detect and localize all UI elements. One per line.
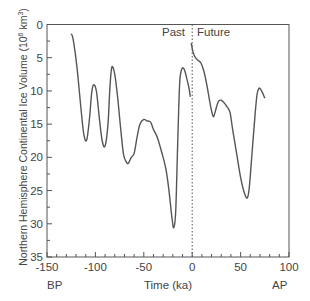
x-tick-label: -100 bbox=[84, 261, 107, 273]
y-tick-label: 20 bbox=[30, 151, 43, 163]
x-tick-label: -50 bbox=[135, 261, 152, 273]
y-axis-ticks: 05101520253035 bbox=[30, 19, 52, 264]
x-axis-label: Time (ka) bbox=[144, 279, 192, 291]
past-label: Past bbox=[162, 26, 186, 38]
x-tick-label: 0 bbox=[189, 261, 195, 273]
x-tick-label: -150 bbox=[35, 261, 58, 273]
series-line-future bbox=[191, 43, 265, 198]
y-tick-label: 0 bbox=[37, 19, 43, 31]
ice-volume-chart: 05101520253035 -150-100-50050100 Past Fu… bbox=[0, 0, 310, 301]
y-tick-label: 30 bbox=[30, 218, 43, 230]
y-tick-label: 10 bbox=[30, 85, 43, 97]
x-tick-label: 50 bbox=[234, 261, 247, 273]
future-label: Future bbox=[197, 26, 230, 38]
y-tick-label: 15 bbox=[30, 118, 43, 130]
series-line-past bbox=[71, 34, 190, 228]
ap-label: AP bbox=[272, 279, 288, 291]
ice-volume-lines bbox=[71, 34, 265, 228]
bp-label: BP bbox=[47, 279, 63, 291]
y-tick-label: 25 bbox=[30, 185, 43, 197]
y-tick-label: 5 bbox=[37, 52, 43, 64]
x-axis-ticks: -150-100-50050100 bbox=[35, 252, 298, 273]
y-axis-label: Northern Hemisphere Continental Ice Volu… bbox=[17, 8, 29, 266]
x-tick-label: 100 bbox=[279, 261, 298, 273]
